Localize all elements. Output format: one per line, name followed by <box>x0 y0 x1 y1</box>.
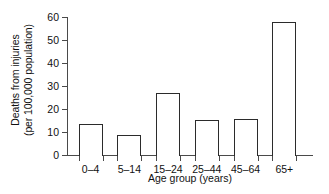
bar <box>156 93 180 156</box>
x-tick-mark <box>180 155 181 161</box>
x-axis-title: Age group (years) <box>67 172 313 184</box>
bar <box>272 22 296 156</box>
y-tick-mark <box>62 132 67 133</box>
bar <box>117 135 141 156</box>
y-tick-label: 60 <box>47 11 59 23</box>
y-tick-label: 50 <box>47 34 59 46</box>
y-tick-label: 10 <box>47 126 59 138</box>
bar <box>195 120 219 156</box>
y-tick-label: 20 <box>47 103 59 115</box>
y-axis-title-line-2: (per 100,000 population) <box>22 24 35 136</box>
y-tick-mark <box>62 86 67 87</box>
y-tick-mark <box>62 155 67 156</box>
bar-chart-figure: Deaths from injuries (per 100,000 popula… <box>0 0 329 194</box>
x-tick-mark <box>141 155 142 161</box>
y-axis-line <box>67 17 68 156</box>
y-tick-mark <box>62 40 67 41</box>
y-axis-title-line-1: Deaths from injuries <box>9 24 22 136</box>
y-tick-mark <box>62 109 67 110</box>
y-tick-label: 0 <box>53 149 59 161</box>
x-tick-mark <box>296 155 297 161</box>
y-tick-mark <box>62 63 67 64</box>
x-tick-mark <box>103 155 104 161</box>
y-tick-label: 30 <box>47 80 59 92</box>
x-tick-mark <box>258 155 259 161</box>
y-tick-mark <box>62 17 67 18</box>
y-tick-label: 40 <box>47 57 59 69</box>
bar <box>79 124 103 156</box>
y-axis-title: Deaths from injuries (per 100,000 popula… <box>0 0 44 160</box>
bar <box>234 119 258 156</box>
x-tick-mark <box>219 155 220 161</box>
plot-area: 0102030405060 0–45–1415–2425–4445–6465+ <box>67 17 313 156</box>
